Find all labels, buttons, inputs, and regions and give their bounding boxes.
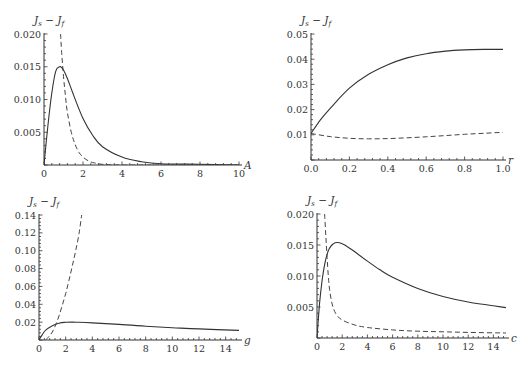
panel-top-left: 02468100.0050.0100.0150.020AJs − Jf (14, 14, 252, 179)
x-axis-label: g (244, 334, 251, 346)
figure: 02468100.0050.0100.0150.020AJs − Jf 0.00… (0, 0, 530, 367)
y-tick-label: 0.020 (287, 209, 314, 220)
x-axis-label: A (243, 159, 252, 171)
x-tick-label: 2 (63, 343, 69, 354)
y-tick-label: 0.005 (287, 302, 314, 313)
y-tick-label: 0.03 (287, 79, 308, 90)
x-tick-label: 0.6 (419, 163, 434, 174)
panel-bottom-right: 024681012140.0050.0100.0150.020cJs − Jf (287, 194, 517, 352)
y-tick-label: 0.05 (287, 29, 308, 40)
x-tick-label: 6 (158, 168, 164, 179)
x-axis-label: c (511, 332, 517, 344)
x-tick-label: 4 (364, 341, 370, 352)
y-tick-label: 0.010 (14, 94, 41, 105)
x-tick-label: 2 (339, 341, 345, 352)
y-tick-label: 0.10 (15, 245, 36, 256)
y-tick-label: 0.04 (15, 299, 36, 310)
y-tick-label: 0.02 (15, 317, 36, 328)
x-tick-label: 6 (390, 341, 396, 352)
x-tick-label: 0 (314, 341, 320, 352)
y-tick-label: 0.04 (287, 54, 308, 65)
x-tick-label: 4 (119, 168, 125, 179)
y-tick-label: 0.01 (287, 129, 308, 140)
panel-bottom-left: 024681012140.020.040.060.080.100.120.14g… (15, 195, 251, 354)
x-tick-label: 14 (220, 343, 232, 354)
x-tick-label: 12 (193, 343, 205, 354)
x-tick-label: 0.2 (342, 163, 357, 174)
y-tick-label: 0.06 (15, 281, 36, 292)
y-axis-label: Js − Jf (27, 195, 61, 209)
x-axis-label: r (508, 154, 514, 166)
series-solid-line (39, 322, 239, 340)
y-tick-label: 0.015 (14, 61, 41, 72)
y-axis-label: Js − Jf (299, 14, 333, 28)
y-tick-label: 0.015 (287, 240, 314, 251)
x-tick-label: 0 (41, 168, 47, 179)
x-tick-label: 8 (143, 343, 149, 354)
y-tick-label: 0.005 (14, 127, 41, 138)
x-tick-label: 6 (116, 343, 122, 354)
x-tick-label: 0 (36, 343, 42, 354)
series-solid-line (317, 243, 506, 339)
x-tick-label: 8 (415, 341, 421, 352)
y-axis-label: Js − Jf (32, 14, 66, 28)
y-tick-label: 0.010 (287, 271, 314, 282)
x-tick-label: 0.8 (457, 163, 472, 174)
x-tick-label: 12 (462, 341, 474, 352)
series-solid-line (44, 67, 239, 165)
y-tick-label: 0.08 (15, 263, 36, 274)
series-dashed-line (311, 132, 503, 139)
y-tick-label: 0.020 (14, 29, 41, 40)
x-tick-label: 0.4 (380, 163, 395, 174)
panel-top-right: 0.00.20.40.60.81.00.010.020.030.040.05rJ… (287, 14, 514, 174)
series-dashed-line (61, 34, 239, 165)
x-tick-label: 2 (80, 168, 86, 179)
x-tick-label: 4 (89, 343, 95, 354)
x-tick-label: 10 (166, 343, 178, 354)
x-tick-label: 0.0 (303, 163, 318, 174)
x-tick-label: 14 (487, 341, 499, 352)
x-tick-label: 10 (437, 341, 449, 352)
y-tick-label: 0.12 (15, 227, 36, 238)
y-tick-label: 0.14 (15, 210, 36, 221)
y-tick-label: 0.02 (287, 104, 308, 115)
x-tick-label: 8 (197, 168, 203, 179)
series-dashed-line (325, 214, 506, 333)
series-dashed-line (46, 215, 82, 340)
series-solid-line (311, 49, 503, 133)
y-axis-label: Js − Jf (305, 194, 339, 208)
